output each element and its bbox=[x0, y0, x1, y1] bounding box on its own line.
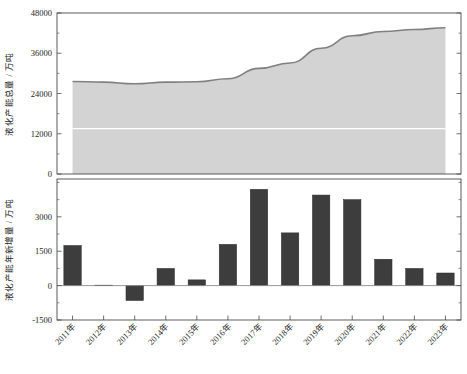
bar bbox=[250, 189, 267, 285]
bottom-x-ticklabels: 2011年2012年2013年2014年2015年2016年2017年2018年… bbox=[53, 321, 451, 346]
bottom-y-axis-title: 液化产能年新增量 / 万吨 bbox=[4, 199, 14, 301]
combined-production-capacity-chart: 012000240003600048000 液化产能总量 / 万吨 -15000… bbox=[0, 0, 467, 374]
x-ticklabel-year: 2023年 bbox=[425, 321, 450, 346]
bottom-y-ticklabel: 1500 bbox=[35, 246, 52, 256]
bar bbox=[157, 268, 174, 285]
bar bbox=[406, 268, 423, 285]
x-ticklabel-year: 2018年 bbox=[270, 321, 295, 346]
top-y-ticklabel: 48000 bbox=[31, 8, 52, 18]
bottom-y-ticklabel: 3000 bbox=[35, 212, 52, 222]
top-y-ticklabel: 12000 bbox=[31, 129, 52, 139]
x-ticklabel-year: 2012年 bbox=[84, 321, 109, 346]
bar bbox=[312, 195, 329, 286]
bar bbox=[375, 259, 392, 285]
bottom-y-ticklabel: -1500 bbox=[32, 315, 52, 325]
top-panel-area-chart: 012000240003600048000 液化产能总量 / 万吨 bbox=[4, 8, 461, 179]
bottom-panel-bar-chart: -1500015003000 2011年2012年2013年2014年2015年… bbox=[4, 179, 461, 347]
bottom-y-ticklabel: 0 bbox=[48, 281, 52, 291]
x-ticklabel-year: 2014年 bbox=[146, 321, 171, 346]
bar bbox=[281, 233, 298, 286]
chart-figure: 012000240003600048000 液化产能总量 / 万吨 -15000… bbox=[0, 0, 467, 374]
x-ticklabel-year: 2019年 bbox=[301, 321, 326, 346]
bar bbox=[64, 245, 81, 285]
top-y-ticklabels: 012000240003600048000 bbox=[31, 8, 52, 179]
top-y-axis-title: 液化产能总量 / 万吨 bbox=[4, 52, 14, 135]
x-ticklabel-year: 2011年 bbox=[53, 321, 78, 346]
x-ticklabel-year: 2017年 bbox=[239, 321, 264, 346]
top-y-ticklabel: 0 bbox=[48, 169, 52, 179]
bar bbox=[188, 280, 205, 286]
bottom-y-ticklabels: -1500015003000 bbox=[32, 212, 52, 325]
x-ticklabel-year: 2020年 bbox=[332, 321, 357, 346]
top-y-ticklabel: 24000 bbox=[31, 89, 52, 99]
x-ticklabel-year: 2015年 bbox=[177, 321, 202, 346]
top-y-ticklabel: 36000 bbox=[31, 48, 52, 58]
bar bbox=[437, 273, 454, 286]
x-ticklabel-year: 2013年 bbox=[115, 321, 140, 346]
bar bbox=[126, 286, 143, 301]
bar bbox=[344, 200, 361, 286]
x-ticklabel-year: 2021年 bbox=[363, 321, 388, 346]
x-ticklabel-year: 2016年 bbox=[208, 321, 233, 346]
bar bbox=[219, 244, 236, 285]
x-ticklabel-year: 2022年 bbox=[394, 321, 419, 346]
